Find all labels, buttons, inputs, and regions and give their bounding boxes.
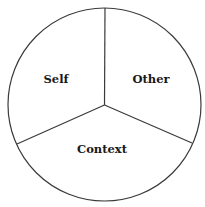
sector-label-other: Other (132, 72, 170, 86)
sector-label-context: Context (77, 142, 128, 156)
sector-label-self: Self (44, 72, 70, 86)
three-part-circle-diagram: Self Other Context (0, 0, 205, 207)
divider-top (105, 8, 106, 105)
